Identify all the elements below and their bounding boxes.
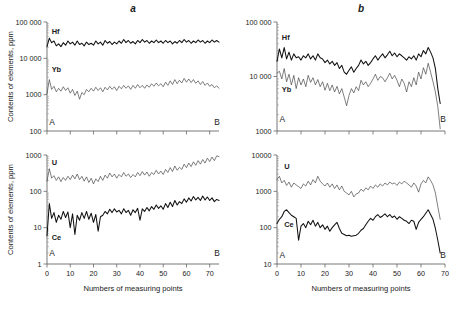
series-label-U: U xyxy=(284,162,289,171)
endpoint-label-A: A xyxy=(49,248,55,258)
x-tick-label: 40 xyxy=(136,269,144,278)
y-tick-label: 10 000 xyxy=(20,54,42,63)
x-tick-label: 30 xyxy=(113,269,121,278)
series-label-Yb: Yb xyxy=(52,65,62,74)
x-tick-label: 40 xyxy=(369,269,377,278)
panel-a-top: 100100010 000100 000HfYbABaContents of e… xyxy=(6,3,220,136)
series-label-Ce: Ce xyxy=(52,233,61,242)
endpoint-label-B: B xyxy=(214,248,220,258)
series-line-Yb xyxy=(277,63,440,128)
y-tick-label: 10000 xyxy=(252,151,272,160)
series-line-U xyxy=(47,156,219,184)
y-tick-label: 10 xyxy=(34,223,42,232)
x-tick-label: 70 xyxy=(441,269,449,278)
y-tick-label: 1000 xyxy=(26,90,42,99)
panel-label-b: b xyxy=(358,3,364,14)
y-tick-label: 1000 xyxy=(256,187,272,196)
y-tick-label: 1 xyxy=(38,260,42,269)
endpoint-label-B: B xyxy=(440,114,446,124)
endpoint-label-A: A xyxy=(279,250,285,260)
series-label-U: U xyxy=(52,158,57,167)
series-label-Ce: Ce xyxy=(284,220,293,229)
y-axis-title: Contents of elements, ppm xyxy=(6,31,15,122)
y-tick-label: 100 000 xyxy=(16,18,42,27)
panel-b-top: 100010 000100 000HfYbABb xyxy=(246,3,447,136)
series-line-Hf xyxy=(47,38,219,47)
y-tick-label: 10 xyxy=(264,260,272,269)
x-tick-label: 70 xyxy=(206,269,214,278)
x-tick-label: 0 xyxy=(45,269,49,278)
series-line-Hf xyxy=(277,48,440,104)
y-tick-label: 100 000 xyxy=(246,18,272,27)
x-tick-label: 20 xyxy=(89,269,97,278)
panel-b-bottom: 10100100010000010203040506070UCeABNumber… xyxy=(252,151,450,293)
y-tick-label: 1000 xyxy=(256,127,272,136)
y-tick-label: 1000 xyxy=(26,151,42,160)
figure-canvas: 100100010 000100 000HfYbABaContents of e… xyxy=(0,0,473,311)
series-label-Hf: Hf xyxy=(282,33,290,42)
series-line-Ce xyxy=(277,210,440,253)
series-line-Ce xyxy=(47,196,219,236)
series-label-Yb: Yb xyxy=(282,85,292,94)
x-tick-label: 10 xyxy=(297,269,305,278)
figure-root: 100100010 000100 000HfYbABaContents of e… xyxy=(0,0,473,311)
y-tick-label: 100 xyxy=(30,187,42,196)
series-line-Yb xyxy=(47,78,219,99)
x-tick-label: 20 xyxy=(321,269,329,278)
x-tick-label: 10 xyxy=(66,269,74,278)
x-axis-title: Numbers of measuring points xyxy=(83,284,182,293)
x-tick-label: 0 xyxy=(275,269,279,278)
endpoint-label-B: B xyxy=(440,250,446,260)
y-tick-label: 100 xyxy=(260,223,272,232)
endpoint-label-A: A xyxy=(49,117,55,127)
panel-a-bottom: 1101001000010203040506070UCeABNumbers of… xyxy=(6,151,220,293)
x-tick-label: 30 xyxy=(345,269,353,278)
y-tick-label: 100 xyxy=(30,127,42,136)
series-line-U xyxy=(277,176,440,219)
x-tick-label: 60 xyxy=(417,269,425,278)
x-tick-label: 60 xyxy=(182,269,190,278)
x-tick-label: 50 xyxy=(393,269,401,278)
x-axis-title: Numbers of measuring points xyxy=(311,284,410,293)
x-tick-label: 50 xyxy=(159,269,167,278)
endpoint-label-B: B xyxy=(214,117,220,127)
endpoint-label-A: A xyxy=(279,114,285,124)
y-tick-label: 10 000 xyxy=(250,72,272,81)
y-axis-title: Contents of elements, ppm xyxy=(6,164,15,255)
series-label-Hf: Hf xyxy=(52,27,60,36)
panel-label-a: a xyxy=(130,3,136,14)
